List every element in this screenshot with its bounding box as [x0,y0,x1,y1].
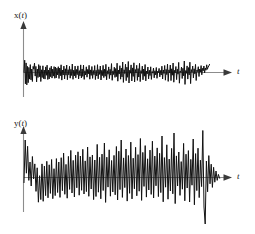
signal-figure: x(t) t y(t) t [0,0,255,234]
y-axis-label-x: x(t) [14,11,27,20]
y-axis-label-x-close-paren: ) [24,10,27,20]
y-axis-label-y: y(t) [14,119,27,128]
plot-svg-x [0,0,255,117]
vertical-axis-x [20,21,26,97]
waveform-y [24,131,220,225]
x-axis-label-t-top: t [237,67,240,76]
waveform-x [24,60,210,85]
vertical-axis-y [20,126,26,212]
x-axis-label-t-bottom: t [237,172,240,181]
plot-panel-y: y(t) t [0,117,255,234]
plot-panel-x: x(t) t [0,0,255,117]
y-axis-label-y-close-paren: ) [24,118,27,128]
plot-svg-y [0,117,255,234]
